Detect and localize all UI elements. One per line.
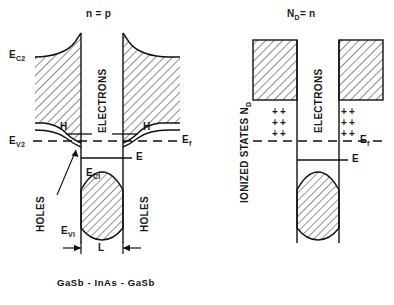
label-h-right: H: [143, 122, 151, 132]
label-holes-right: HOLES: [140, 196, 150, 232]
charge-plus-right-1: +: [341, 107, 347, 117]
holes-pointer-arrow-left: [57, 150, 79, 195]
figure-caption: GaSb - InAs - GaSb: [57, 277, 155, 288]
charge-plus-left-2: +: [280, 107, 286, 117]
label-e-level-left: E: [136, 152, 143, 162]
charge-plus-right-3: +: [341, 118, 347, 128]
label-ef-left: Ef: [182, 135, 192, 145]
well-band-region-left: [81, 172, 123, 240]
charge-plus-right-2: +: [349, 107, 355, 117]
charge-plus-left-3: +: [272, 118, 278, 128]
charge-plus-right-6: +: [349, 129, 355, 139]
label-electrons-right: ELECTRONS: [314, 69, 324, 133]
well-band-region-right: [297, 172, 339, 240]
left-barrier-band-region: [35, 33, 81, 147]
label-ef-right: Ef: [360, 135, 370, 145]
band-diagram-figure: [0, 0, 394, 305]
label-h-left: H: [60, 122, 68, 132]
label-holes-left: HOLES: [36, 196, 46, 232]
right-panel-left-barrier: [253, 40, 297, 100]
right-panel-title: ND= n: [287, 9, 316, 19]
right-barrier-band-region: [123, 33, 180, 147]
right-panel-right-barrier: [339, 40, 383, 100]
charge-plus-left-4: +: [280, 118, 286, 128]
left-panel-title: n = p: [86, 9, 111, 19]
label-ec1: ECI: [86, 168, 101, 178]
left-panel: [33, 33, 180, 254]
label-e-level-right: E: [352, 154, 359, 164]
charge-plus-left-6: +: [280, 129, 286, 139]
label-ev2: EV2: [9, 136, 25, 146]
label-ionized-states: IONIZED STATES ND: [240, 102, 250, 203]
charge-plus-left-5: +: [272, 129, 278, 139]
label-ec2: EC2: [9, 50, 26, 60]
label-electrons-left: ELECTRONS: [98, 69, 108, 133]
label-ev1: EVI: [61, 226, 75, 236]
charge-plus-right-4: +: [349, 118, 355, 128]
charge-plus-left-1: +: [272, 107, 278, 117]
charge-plus-right-5: +: [341, 129, 347, 139]
label-well-width-l: L: [98, 243, 104, 253]
